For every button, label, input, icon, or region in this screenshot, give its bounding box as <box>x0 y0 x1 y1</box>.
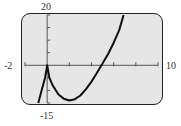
plot-area <box>0 0 181 126</box>
function-curve <box>38 15 123 103</box>
ymin-label: -15 <box>40 111 53 121</box>
xmin-label: -2 <box>4 61 12 71</box>
ymax-label: 20 <box>41 2 51 12</box>
xmax-label: 10 <box>166 61 176 71</box>
